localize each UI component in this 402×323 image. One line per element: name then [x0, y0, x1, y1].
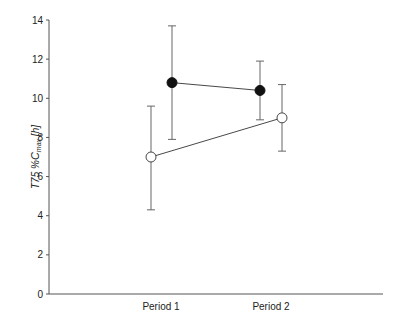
series-open-circle-group: [146, 85, 287, 210]
y-tick-label: 4: [37, 210, 43, 221]
y-axis-label: T75 %Cmax [h]: [29, 125, 42, 189]
filled-circle-marker: [255, 85, 265, 95]
y-tick-label: 2: [37, 249, 43, 260]
series-line: [151, 118, 282, 157]
x-category-label: Period 2: [252, 301, 290, 312]
series-filled-circle-group: [167, 26, 265, 140]
y-tick-label: 10: [32, 93, 44, 104]
open-circle-marker: [146, 152, 156, 162]
x-category-label: Period 1: [142, 301, 180, 312]
plot-area: [146, 26, 287, 210]
open-circle-marker: [277, 113, 287, 123]
filled-circle-marker: [167, 78, 177, 88]
y-tick-label: 12: [32, 54, 44, 65]
chart: 02468101214 T75 %Cmax [h] Period 1Period…: [0, 0, 402, 323]
y-tick-label: 14: [32, 15, 44, 26]
series-line: [172, 83, 260, 91]
y-tick-label: 0: [37, 289, 43, 300]
y-axis-title: T75 %Cmax [h]: [29, 125, 42, 189]
axes: [49, 20, 383, 294]
x-category-labels: Period 1Period 2: [142, 301, 290, 312]
